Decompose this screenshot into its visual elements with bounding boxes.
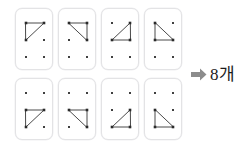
grid-dot-ml [25, 39, 28, 42]
grid-dot-mr [172, 109, 174, 111]
card-6[interactable] [58, 78, 96, 140]
grid-dot-bl [25, 126, 28, 129]
grid-dot-br [129, 56, 131, 58]
triangle-outline [26, 23, 44, 40]
diagram-canvas: 8개 [0, 0, 245, 159]
grid-dot-ml [154, 109, 157, 112]
triangle-outline [26, 110, 44, 127]
grid-dot-tr [86, 92, 88, 94]
card-6-figure [59, 79, 97, 141]
grid-dot-ml [111, 39, 114, 42]
card-2-figure [59, 9, 97, 71]
grid-dot-tl [68, 22, 71, 25]
card-5-figure [16, 79, 54, 141]
grid-dot-ml [154, 39, 157, 42]
card-2[interactable] [58, 8, 96, 70]
grid-dot-tl [25, 92, 27, 94]
grid-dot-bl [154, 56, 156, 58]
result-count-label: 8개 [210, 66, 235, 83]
grid-dot-tr [129, 22, 132, 25]
card-1[interactable] [15, 8, 53, 70]
grid-dot-bl [154, 126, 157, 129]
triangle-outline [112, 23, 130, 40]
grid-dot-bl [68, 126, 70, 128]
grid-dot-tr [43, 22, 46, 25]
grid-dot-mr [172, 39, 175, 42]
triangle-outline [155, 23, 173, 40]
result-annotation: 8개 [191, 62, 235, 86]
grid-dot-tl [68, 92, 70, 94]
grid-dot-br [43, 56, 45, 58]
card-1-figure [16, 9, 54, 71]
grid-dot-tl [25, 22, 28, 25]
triangle-outline [69, 23, 87, 40]
grid-dot-tl [154, 92, 156, 94]
grid-dot-mr [43, 109, 46, 112]
grid-dot-ml [68, 109, 71, 112]
triangle-outline [112, 110, 130, 127]
grid-dot-br [86, 126, 89, 129]
grid-dot-ml [111, 109, 113, 111]
grid-dot-tr [43, 92, 45, 94]
grid-dot-tr [172, 92, 174, 94]
arrow-right-icon [191, 68, 207, 81]
card-8-figure [145, 79, 183, 141]
grid-dot-br [86, 56, 88, 58]
grid-dot-mr [86, 39, 89, 42]
card-4[interactable] [144, 8, 182, 70]
grid-dot-br [129, 126, 132, 129]
grid-dot-mr [86, 109, 89, 112]
grid-dot-tr [86, 22, 89, 25]
grid-dot-ml [25, 109, 28, 112]
card-5[interactable] [15, 78, 53, 140]
card-3[interactable] [101, 8, 139, 70]
card-3-figure [102, 9, 140, 71]
grid-dot-tl [154, 22, 157, 25]
grid-dot-bl [68, 56, 70, 58]
grid-dot-tl [111, 92, 113, 94]
grid-dot-bl [111, 126, 114, 129]
card-7-figure [102, 79, 140, 141]
grid-dot-tr [129, 92, 131, 94]
card-8[interactable] [144, 78, 182, 140]
grid-dot-mr [129, 39, 132, 42]
triangle-outline [69, 110, 87, 127]
card-4-figure [145, 9, 183, 71]
grid-dot-br [43, 126, 45, 128]
card-grid [15, 8, 187, 150]
triangle-outline [155, 110, 173, 127]
grid-dot-bl [111, 56, 113, 58]
grid-dot-br [172, 126, 175, 129]
grid-dot-br [172, 56, 174, 58]
grid-dot-ml [68, 39, 70, 41]
grid-dot-tr [172, 22, 174, 24]
grid-dot-mr [43, 39, 45, 41]
card-7[interactable] [101, 78, 139, 140]
grid-dot-bl [25, 56, 27, 58]
grid-dot-mr [129, 109, 132, 112]
grid-dot-tl [111, 22, 113, 24]
